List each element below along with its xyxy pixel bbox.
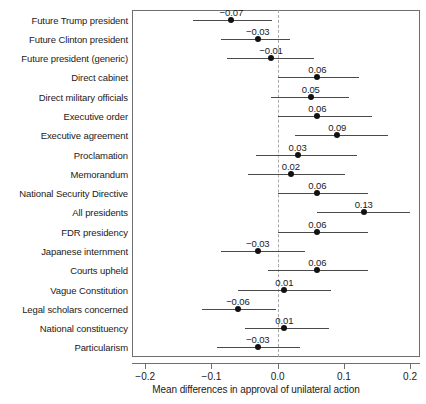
estimate-row: 0.03 [132, 145, 420, 164]
category-label: Direct military officials [0, 91, 128, 102]
estimate-value-label: 0.06 [308, 219, 326, 230]
estimate-row: 0.01 [132, 318, 420, 337]
x-axis: −0.2−0.10.00.10.2 [132, 363, 420, 364]
category-label: Japanese internment [0, 245, 128, 256]
estimate-row: −0.01 [132, 49, 420, 68]
estimate-value-label: 0.01 [275, 315, 293, 326]
category-label: Future Clinton president [0, 33, 128, 44]
category-label: Vague Constitution [0, 284, 128, 295]
confidence-interval-bar [221, 251, 305, 252]
x-axis-tick-label: 0.1 [337, 371, 351, 382]
estimate-row: −0.07 [132, 10, 420, 29]
estimate-row: 0.02 [132, 164, 420, 183]
x-axis-title: Mean differences in approval of unilater… [0, 384, 426, 395]
confidence-interval-bar [248, 174, 345, 175]
confidence-interval-bar [295, 135, 388, 136]
x-axis-tick [410, 364, 411, 369]
category-label: Direct cabinet [0, 72, 128, 83]
category-label: Memorandum [0, 168, 128, 179]
category-label: All presidents [0, 207, 128, 218]
estimate-value-label: 0.05 [302, 84, 320, 95]
x-axis-tick [278, 364, 279, 369]
confidence-interval-bar [278, 116, 373, 117]
estimate-value-label: 0.09 [328, 122, 346, 133]
estimate-row: 0.06 [132, 184, 420, 203]
x-axis-title-text: Mean differences in approval of unilater… [152, 384, 359, 395]
category-label: Executive order [0, 111, 128, 122]
estimate-row: 0.09 [132, 126, 420, 145]
estimate-row: −0.03 [132, 241, 420, 260]
estimate-row: 0.06 [132, 68, 420, 87]
estimate-value-label: −0.03 [246, 26, 270, 37]
category-label: FDR presidency [0, 226, 128, 237]
estimate-row: 0.05 [132, 87, 420, 106]
estimate-value-label: 0.13 [355, 199, 373, 210]
estimate-value-label: −0.03 [246, 334, 270, 345]
estimate-row: 0.06 [132, 106, 420, 125]
estimate-value-label: 0.06 [308, 180, 326, 191]
forest-plot-figure: Future Trump presidentFuture Clinton pre… [0, 0, 426, 404]
estimate-value-label: −0.01 [259, 45, 283, 56]
estimate-value-label: −0.06 [226, 296, 250, 307]
x-axis-tick [211, 364, 212, 369]
category-label: Particularism [0, 342, 128, 353]
x-axis-tick-label: 0.2 [403, 371, 417, 382]
category-label: Future Trump president [0, 14, 128, 25]
estimate-value-label: 0.02 [282, 161, 300, 172]
category-label: Legal scholars concerned [0, 303, 128, 314]
estimate-row: −0.03 [132, 338, 420, 357]
estimate-value-label: 0.06 [308, 103, 326, 114]
category-axis-labels: Future Trump presidentFuture Clinton pre… [0, 10, 128, 357]
estimate-value-label: 0.03 [288, 142, 306, 153]
estimate-value-label: 0.01 [275, 277, 293, 288]
category-label: Future president (generic) [0, 53, 128, 64]
category-label: Proclamation [0, 149, 128, 160]
estimate-row: 0.06 [132, 222, 420, 241]
category-label: Courts upheld [0, 265, 128, 276]
x-axis-tick-label: 0.0 [271, 371, 285, 382]
confidence-interval-bar [278, 232, 368, 233]
category-label: National constituency [0, 323, 128, 334]
estimate-value-label: 0.06 [308, 257, 326, 268]
x-axis-tick-label: −0.2 [135, 371, 155, 382]
x-axis-tick [344, 364, 345, 369]
estimate-value-label: −0.03 [246, 238, 270, 249]
plot-area: −0.07−0.03−0.010.060.050.060.090.030.020… [132, 10, 420, 357]
category-label: National Security Directive [0, 188, 128, 199]
estimate-value-label: −0.07 [220, 7, 244, 18]
confidence-interval-bar [278, 193, 369, 194]
category-label: Executive agreement [0, 130, 128, 141]
x-axis-tick-label: −0.1 [202, 371, 222, 382]
estimate-row: 0.01 [132, 280, 420, 299]
estimate-row: 0.13 [132, 203, 420, 222]
estimate-value-label: 0.06 [308, 64, 326, 75]
x-axis-tick [145, 364, 146, 369]
confidence-interval-bar [256, 155, 357, 156]
